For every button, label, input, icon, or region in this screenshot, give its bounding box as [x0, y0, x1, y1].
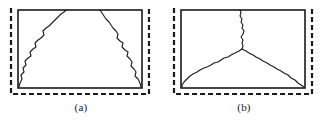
panel-b-caption: (b)	[163, 100, 325, 114]
specimen-diagram-b	[163, 0, 325, 100]
specimen-diagram-a	[0, 0, 162, 100]
figure-root: (a) (b)	[0, 0, 325, 122]
figure-panel-a: (a)	[0, 0, 162, 122]
figure-panel-b: (b)	[163, 0, 325, 122]
panel-a-caption: (a)	[0, 100, 162, 114]
